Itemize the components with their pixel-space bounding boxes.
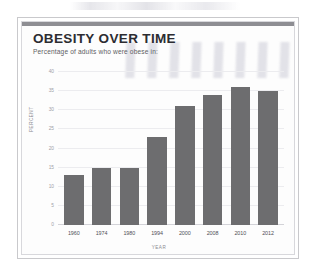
bar[interactable] [120, 168, 139, 225]
x-axis-tick-label: 2010 [234, 230, 246, 236]
x-axis-tick-label: 1974 [96, 230, 108, 236]
bar-slot: 1980 [116, 72, 144, 225]
x-axis-title: YEAR [30, 245, 288, 250]
y-axis-tick-label: 25 [49, 126, 54, 131]
page-title: OBESITY OVER TIME [33, 31, 176, 46]
chart-card-inner: OBESITY OVER TIME Percentage of adults w… [21, 21, 295, 255]
y-axis-title: PERCENT [29, 107, 34, 132]
bar-slot: 2010 [227, 72, 255, 225]
y-axis-tick-label: 30 [49, 107, 54, 112]
bar[interactable] [203, 95, 222, 225]
bar-series: 19601974198019942000200820102012 [60, 72, 282, 225]
card-top-rule [22, 22, 294, 26]
bar[interactable] [147, 137, 166, 225]
bar[interactable] [175, 106, 194, 225]
page-watermark [70, 2, 240, 10]
chart-card: OBESITY OVER TIME Percentage of adults w… [17, 17, 299, 259]
plot-area: 4035302520151050 19601974198019942000200… [58, 72, 284, 225]
x-axis-tick-label: 1980 [123, 230, 135, 236]
x-axis-tick-label: 1994 [151, 230, 163, 236]
bar[interactable] [258, 91, 277, 225]
plot-wrapper: PERCENT YEAR 4035302520151050 1960197419… [30, 68, 288, 250]
bar-slot: 1960 [60, 72, 88, 225]
x-axis-tick-label: 2008 [207, 230, 219, 236]
chart-subtitle: Percentage of adults who were obese in: [33, 48, 158, 55]
bar-slot: 2008 [199, 72, 227, 225]
y-axis-tick-label: 5 [51, 202, 54, 207]
bar-slot: 1994 [143, 72, 171, 225]
y-axis-tick-label: 35 [49, 88, 54, 93]
bar-slot: 2012 [254, 72, 282, 225]
x-axis-tick-label: 1960 [68, 230, 80, 236]
x-axis-tick-label: 2012 [262, 230, 274, 236]
y-axis-tick-label: 10 [49, 183, 54, 188]
y-axis-tick-label: 20 [49, 145, 54, 150]
y-axis-tick-label: 15 [49, 164, 54, 169]
bar[interactable] [231, 87, 250, 225]
y-axis-tick-label: 40 [49, 69, 54, 74]
x-axis-tick-label: 2000 [179, 230, 191, 236]
bar[interactable] [64, 175, 83, 225]
bar[interactable] [92, 168, 111, 225]
bar-slot: 1974 [88, 72, 116, 225]
y-axis-tick-label: 0 [51, 222, 54, 227]
bar-slot: 2000 [171, 72, 199, 225]
